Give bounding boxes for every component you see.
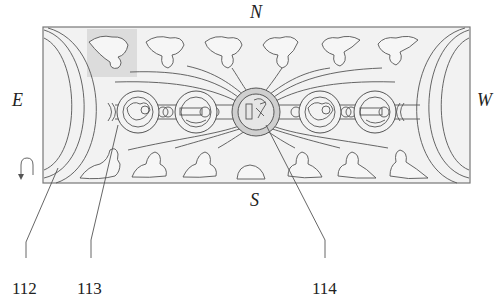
medallion-1 [117, 91, 159, 133]
ref-label-114: 114 [312, 279, 337, 299]
medallion-5 [354, 91, 396, 133]
ref-label-112: 112 [12, 279, 37, 299]
diagram-canvas: N S E W 112 113 114 [0, 0, 500, 305]
medallion-4 [299, 91, 341, 133]
compass-east-label: E [12, 90, 23, 111]
medallion-2 [175, 91, 217, 133]
diagram-svg [0, 0, 500, 305]
central-medallion [232, 88, 280, 136]
compass-south-label: S [250, 190, 259, 211]
ref-label-113: 113 [77, 279, 102, 299]
compass-west-label: W [477, 90, 492, 111]
compass-north-label: N [250, 2, 262, 23]
u-turn-arrow-icon [18, 158, 33, 180]
